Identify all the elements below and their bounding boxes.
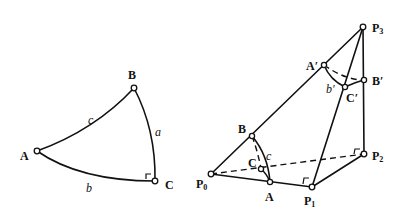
arc-label-b-prime: b′ <box>326 82 335 96</box>
label-C-prime: C′ <box>346 91 358 105</box>
side-label-a: a <box>155 125 161 139</box>
label-C: C <box>165 178 174 192</box>
label-P1: P1 <box>304 194 315 209</box>
point-C <box>258 166 263 171</box>
label-A: A <box>265 190 274 204</box>
edge-P2-P3 <box>363 27 364 154</box>
label-P2: P2 <box>372 149 383 164</box>
side-label-c: c <box>88 113 94 127</box>
point-P3 <box>360 24 366 30</box>
right-angle-mark-P1 <box>303 178 309 184</box>
point-B-prime <box>361 77 366 82</box>
vertex-C <box>152 178 158 184</box>
arc-a <box>134 88 155 181</box>
right-angle-mark-P2 <box>354 149 360 154</box>
point-P2 <box>361 151 367 157</box>
arc-label-c: c <box>266 149 272 163</box>
label-C: C <box>248 156 257 170</box>
point-C-prime <box>342 84 347 89</box>
label-B-prime: B′ <box>372 74 383 88</box>
point-B <box>249 133 254 138</box>
point-P0 <box>208 171 214 177</box>
edge-P0-P2-hidden <box>211 154 364 174</box>
label-P0: P0 <box>196 177 207 192</box>
label-A-prime: A′ <box>306 59 318 73</box>
arc-A-prime-B-prime-hidden <box>324 65 364 80</box>
point-P1 <box>309 184 315 190</box>
point-A <box>267 179 272 184</box>
tetrahedron: P0 P1 P2 P3 A B C A′ B′ C′ c b′ <box>196 21 383 209</box>
label-A: A <box>20 149 29 163</box>
label-B: B <box>238 122 246 136</box>
spherical-triangle: A B C c a b <box>20 68 174 195</box>
arc-c <box>37 88 134 151</box>
vertex-A <box>34 148 40 154</box>
right-angle-mark-C <box>146 174 151 179</box>
edge-P0-P1 <box>211 174 312 187</box>
point-A-prime <box>321 62 326 67</box>
side-label-b: b <box>86 181 92 195</box>
edge-P1-P2 <box>312 154 364 187</box>
arc-b <box>37 151 155 181</box>
label-B: B <box>128 68 136 82</box>
diagram-canvas: A B C c a b P0 <box>0 0 406 222</box>
vertex-B <box>131 85 137 91</box>
label-P3: P3 <box>372 21 383 36</box>
